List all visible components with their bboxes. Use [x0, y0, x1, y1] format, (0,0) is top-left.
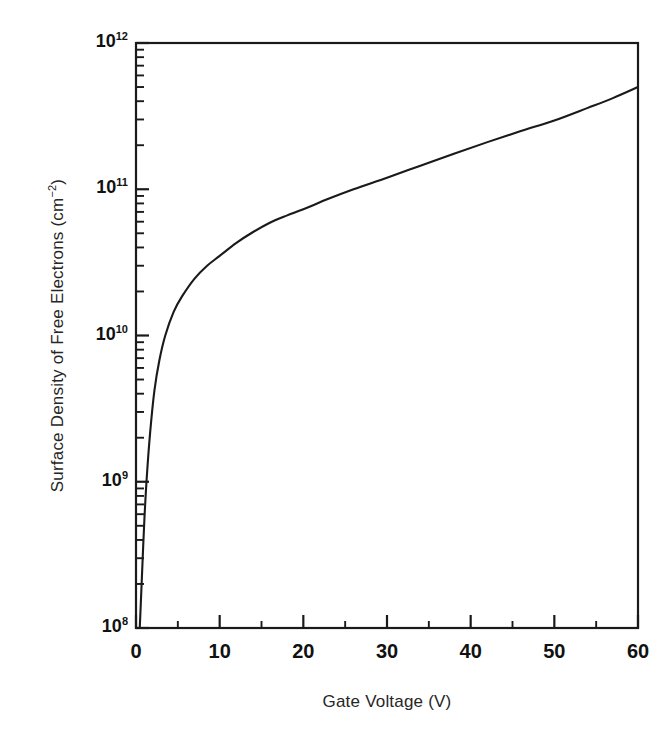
x-tick-label: 40 — [441, 640, 501, 663]
x-tick-label: 50 — [524, 640, 584, 663]
chart-figure: 101210111010109108 0102030405060 Surface… — [0, 0, 670, 745]
y-axis-title-exponent: −2 — [46, 185, 58, 198]
x-tick-label: 60 — [608, 640, 668, 663]
x-tick-label: 0 — [106, 640, 166, 663]
y-axis-title: Surface Density of Free Electrons (cm−2) — [30, 43, 74, 628]
x-axis-tick-labels: 0102030405060 — [0, 0, 670, 745]
y-axis-title-tail: ) — [48, 179, 67, 185]
x-tick-label: 30 — [357, 640, 417, 663]
y-axis-title-text: Surface Density of Free Electrons (cm — [48, 198, 67, 493]
x-axis-title: Gate Voltage (V) — [136, 692, 638, 712]
x-tick-label: 20 — [273, 640, 333, 663]
x-tick-label: 10 — [190, 640, 250, 663]
